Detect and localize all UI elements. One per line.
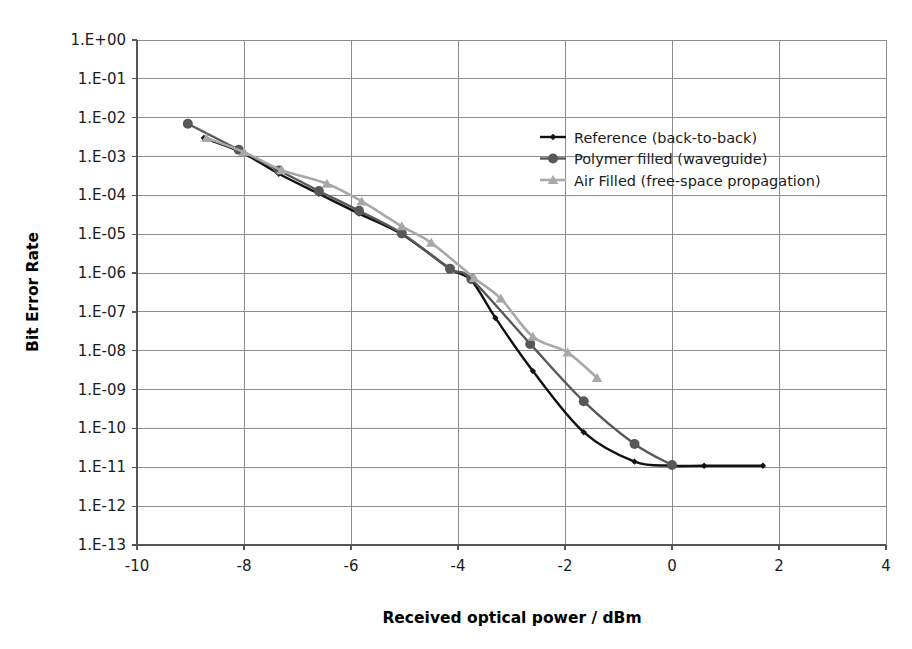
y-tick-label: 1.E+00 (71, 31, 126, 49)
y-tick-label: 1.E-11 (78, 458, 126, 476)
legend: Reference (back-to-back)Polymer filled (… (540, 130, 821, 189)
data-point-marker (548, 154, 558, 164)
y-tick-label: 1.E-03 (78, 148, 126, 166)
y-tick-labels: 1.E+001.E-011.E-021.E-031.E-041.E-051.E-… (71, 31, 126, 554)
y-tick-label: 1.E-01 (78, 70, 126, 88)
series-circle (183, 119, 677, 470)
x-axis-title: Received optical power / dBm (382, 609, 641, 627)
data-point-marker (354, 206, 364, 216)
y-axis-title: Bit Error Rate (24, 232, 42, 352)
bit-error-rate-chart: 1.E+001.E-011.E-021.E-031.E-041.E-051.E-… (0, 0, 912, 649)
legend-item-label: Polymer filled (waveguide) (574, 151, 767, 167)
grid-layer (137, 40, 886, 545)
series-line (207, 138, 598, 378)
y-tick-label: 1.E-13 (78, 536, 126, 554)
data-point-marker (550, 134, 556, 140)
x-tick-label: 2 (774, 557, 784, 575)
y-tick-label: 1.E-02 (78, 109, 126, 127)
x-tick-label: 4 (881, 557, 891, 575)
data-point-marker (356, 196, 367, 205)
chart-canvas: 1.E+001.E-011.E-021.E-031.E-041.E-051.E-… (0, 0, 912, 649)
x-tick-label: -6 (344, 557, 359, 575)
data-point-marker (631, 458, 637, 464)
data-point-marker (701, 462, 707, 468)
x-tick-label: -2 (558, 557, 573, 575)
y-tick-label: 1.E-07 (78, 303, 126, 321)
legend-item-label: Air Filled (free-space propagation) (574, 173, 821, 189)
x-tick-labels: -10-8-6-4-2024 (125, 557, 891, 575)
series-triangle (201, 133, 602, 382)
x-tick-label: -4 (451, 557, 466, 575)
y-tick-label: 1.E-10 (78, 419, 126, 437)
y-tick-label: 1.E-09 (78, 381, 126, 399)
x-tick-label: 0 (667, 557, 677, 575)
series-layer (183, 119, 766, 470)
y-tick-label: 1.E-05 (78, 225, 126, 243)
data-point-marker (445, 264, 455, 274)
axes-layer (132, 40, 886, 550)
data-point-marker (760, 462, 766, 468)
x-tick-label: -8 (237, 557, 252, 575)
y-tick-label: 1.E-04 (78, 186, 126, 204)
y-tick-label: 1.E-08 (78, 342, 126, 360)
data-point-marker (562, 348, 573, 357)
data-point-marker (630, 439, 640, 449)
legend-item-label: Reference (back-to-back) (574, 130, 757, 146)
y-tick-label: 1.E-12 (78, 497, 126, 515)
y-tick-label: 1.E-06 (78, 264, 126, 282)
x-tick-label: -10 (125, 557, 150, 575)
data-point-marker (579, 396, 589, 406)
data-point-marker (183, 119, 193, 129)
data-point-marker (667, 460, 677, 470)
